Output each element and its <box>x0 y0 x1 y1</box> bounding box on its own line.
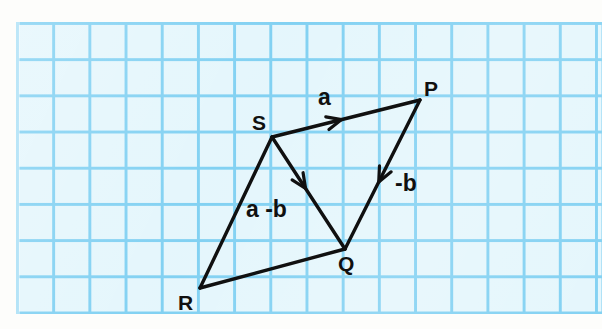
vertex-label-P: P <box>424 78 438 99</box>
edge-RQ <box>200 249 345 288</box>
vertex-label-R: R <box>178 292 193 313</box>
vertex-label-S: S <box>252 112 266 133</box>
edge-SP <box>272 100 420 137</box>
diagram-canvas: a-ba -bPSQR <box>0 0 602 329</box>
edge-label-SP: a <box>318 86 331 109</box>
edge-lines-group <box>200 100 420 288</box>
vector-figure-svg <box>0 0 602 329</box>
edge-label-SR: a -b <box>246 198 287 221</box>
edge-label-PQ: -b <box>395 172 417 195</box>
edge-SQ <box>272 137 345 249</box>
vertex-label-Q: Q <box>338 253 354 274</box>
